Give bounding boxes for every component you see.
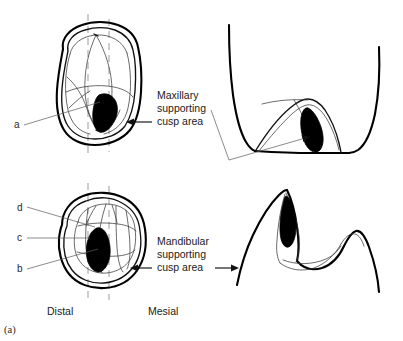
diagram-canvas: a Maxillary supporting cusp area <box>0 0 403 341</box>
maxillary-label-line2: supporting <box>157 102 206 114</box>
mandibular-label-line1: Mandibular <box>157 235 209 247</box>
callout-d-label: d <box>17 202 23 213</box>
callout-b-label: b <box>17 263 23 274</box>
mandibular-label-line3: cusp area <box>157 261 203 273</box>
callout-a-label: a <box>14 119 20 130</box>
orientation-label-distal: Distal <box>47 305 73 317</box>
dental-diagram-figure: a Maxillary supporting cusp area <box>0 0 403 341</box>
orientation-label-mesial: Mesial <box>148 305 178 317</box>
maxillary-label-line3: cusp area <box>157 115 203 127</box>
figure-caption: (a) <box>4 324 16 336</box>
callout-c-label: c <box>17 232 22 243</box>
mandibular-label-line2: supporting <box>157 248 206 260</box>
mandibular-supporting-cusp-area <box>86 228 110 272</box>
maxillary-label-line1: Maxillary <box>157 89 199 101</box>
figure-background <box>0 0 403 341</box>
